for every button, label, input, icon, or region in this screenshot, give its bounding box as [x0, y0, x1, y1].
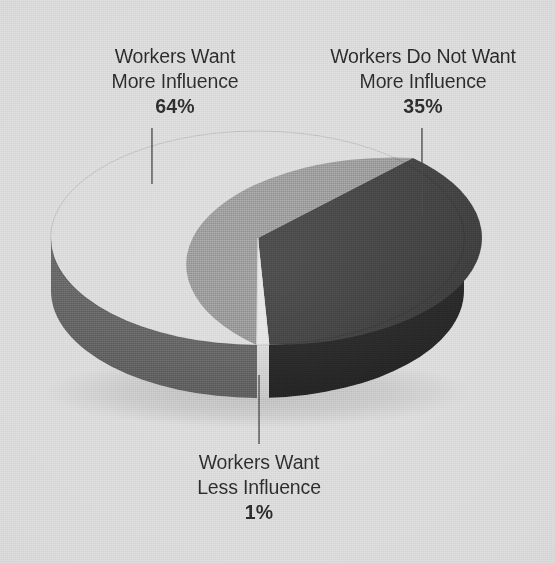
slice-label-more-influence: Workers Want More Influence 64% — [60, 44, 290, 119]
slice-label-less-influence-line1: Workers Want — [139, 450, 379, 475]
slice-label-not-more-influence-line2: More Influence — [300, 69, 546, 94]
slice-label-not-more-influence-line1: Workers Do Not Want — [300, 44, 546, 69]
slice-label-more-influence-line1: Workers Want — [60, 44, 290, 69]
slice-label-more-influence-line2: More Influence — [60, 69, 290, 94]
slice-label-less-influence: Workers Want Less Influence 1% — [139, 450, 379, 525]
slice-value-less-influence: 1% — [139, 500, 379, 525]
slice-label-less-influence-line2: Less Influence — [139, 475, 379, 500]
slice-value-more-influence: 64% — [60, 94, 290, 119]
slice-label-not-more-influence: Workers Do Not Want More Influence 35% — [300, 44, 546, 119]
pie-chart: Workers Want More Influence 64% Workers … — [0, 0, 555, 563]
slice-value-not-more-influence: 35% — [300, 94, 546, 119]
